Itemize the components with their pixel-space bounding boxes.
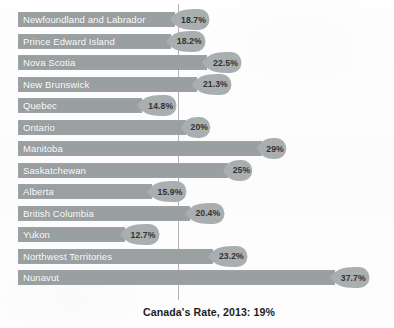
callout-value-text: 23.2% [212,251,244,261]
bar-nunavut[interactable] [18,270,335,285]
callout-value-text: 20.4% [188,208,220,218]
chart-caption: Canada's Rate, 2013: 19% [0,306,394,318]
callout-value-text: 12.7% [124,230,156,240]
value-callout: 18.2% [166,31,206,52]
value-callout: 20% [181,117,210,138]
bar-category-label: Nunavut [23,270,59,285]
callout-value-text: 14.8% [141,101,173,111]
callout-value-text: 37.7% [334,273,366,283]
callout-value-text: 15.9% [151,187,183,197]
value-callout: 15.9% [147,181,187,202]
value-callout: 12.7% [120,224,160,245]
value-callout: 20.4% [185,203,225,224]
bar-category-label: Prince Edward Island [23,34,115,49]
bar-category-label: Alberta [23,184,54,199]
bar-category-label: Saskatchewan [23,163,86,178]
value-callout: 29% [257,138,286,159]
value-callout: 14.8% [137,95,177,116]
value-callout: 23.2% [208,246,248,267]
value-callout: 22.5% [202,52,242,73]
bar-category-label: Northwest Territories [23,249,112,264]
value-callout: 25% [223,160,252,181]
bar-chart: Newfoundland and Labrador18.7%Prince Edw… [0,0,394,328]
callout-value-text: 18.7% [174,15,206,25]
value-callout: 18.7% [170,9,210,30]
callout-value-text: 29% [259,144,284,154]
value-callout: 21.3% [192,74,232,95]
bar-category-label: Manitoba [23,141,63,156]
bar-category-label: New Brunswick [23,77,89,92]
callout-value-text: 25% [226,165,251,175]
callout-value-text: 18.2% [170,36,202,46]
bar-category-label: British Columbia [23,206,94,221]
bar-category-label: Newfoundland and Labrador [23,12,145,27]
chart-plot-area: Newfoundland and Labrador18.7%Prince Edw… [0,0,394,300]
bar-category-label: Ontario [23,120,55,135]
value-callout: 37.7% [330,267,370,288]
callout-value-text: 22.5% [206,58,238,68]
callout-value-text: 20% [184,122,209,132]
bar-category-label: Nova Scotia [23,55,75,70]
bar-category-label: Quebec [23,98,57,113]
bar-category-label: Yukon [23,227,50,242]
callout-value-text: 21.3% [196,79,228,89]
